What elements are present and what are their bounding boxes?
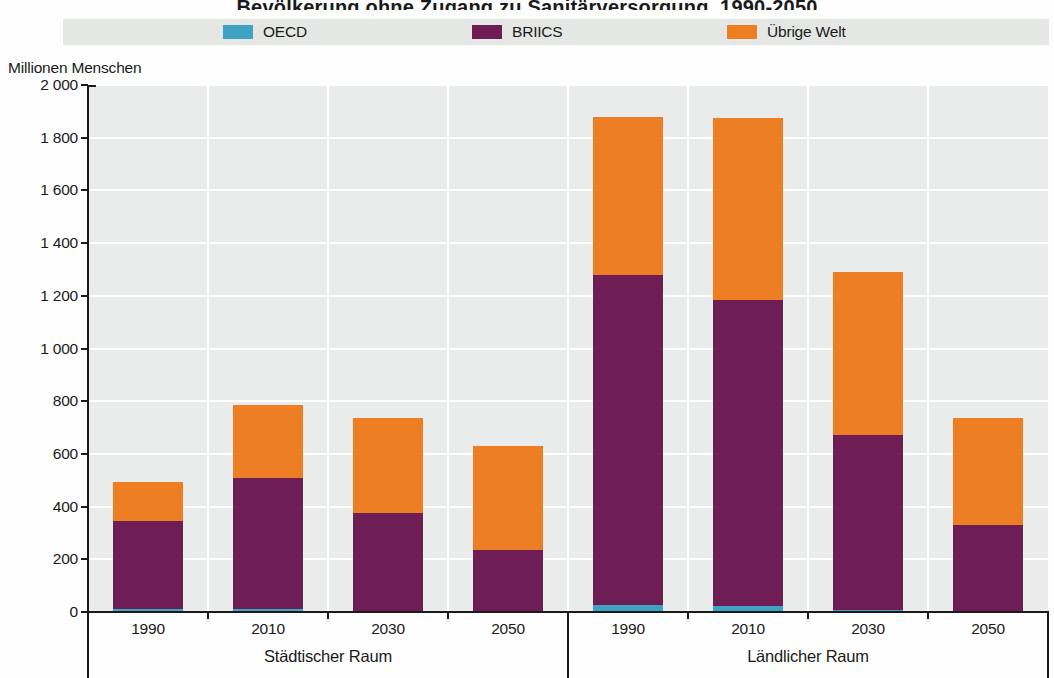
y-axis-tick-label: 800	[0, 392, 78, 410]
gridline-vertical	[447, 85, 449, 612]
x-axis-group-label: Städtischer Raum	[88, 646, 568, 666]
bar-segment--brige-welt	[353, 418, 423, 513]
legend: OECDBRIICSÜbrige Welt	[63, 19, 1049, 45]
x-axis-year-label: 2030	[808, 619, 928, 639]
y-axis-tick-label: 1 600	[0, 181, 78, 199]
bar-segment--brige-welt	[833, 272, 903, 435]
bar-segment--brige-welt	[953, 418, 1023, 525]
legend-item--brige-welt: Übrige Welt	[727, 19, 846, 45]
y-axis-tick	[81, 137, 88, 139]
legend-swatch-icon	[727, 25, 757, 39]
x-axis-year-label: 2050	[928, 619, 1048, 639]
gridline-vertical	[207, 85, 209, 612]
chart-figure: Bevölkerung ohne Zugang zu Sanitärversor…	[0, 0, 1054, 678]
y-axis-tick-label: 600	[0, 445, 78, 463]
x-axis-year-label: 1990	[568, 619, 688, 639]
x-axis-group-label: Ländlicher Raum	[568, 646, 1048, 666]
y-axis-line	[87, 85, 89, 678]
legend-label: OECD	[263, 23, 307, 41]
y-axis-tick-label: 0	[0, 603, 78, 621]
bar-segment--brige-welt	[473, 446, 543, 550]
figure-title-clipped: Bevölkerung ohne Zugang zu Sanitärversor…	[0, 0, 1054, 10]
bar-segment-briics	[953, 525, 1023, 611]
y-axis-tick	[81, 348, 88, 350]
figure-title-text: Bevölkerung ohne Zugang zu Sanitärversor…	[236, 0, 817, 10]
y-axis-top-tick	[89, 85, 96, 87]
bar-segment-briics	[233, 478, 303, 608]
gridline-vertical	[807, 85, 809, 612]
gridline-vertical	[327, 85, 329, 612]
gridline-vertical	[567, 85, 569, 612]
y-axis-tick	[81, 84, 88, 86]
bar-segment-briics	[593, 275, 663, 606]
y-axis-tick-label: 1 800	[0, 129, 78, 147]
legend-label: BRIICS	[512, 23, 562, 41]
bar-segment--brige-welt	[593, 117, 663, 275]
x-axis-year-label: 1990	[88, 619, 208, 639]
y-axis-tick-label: 400	[0, 498, 78, 516]
x-axis-year-label: 2010	[688, 619, 808, 639]
y-axis-tick	[81, 242, 88, 244]
x-axis-year-label: 2010	[208, 619, 328, 639]
y-axis-tick-label: 1 000	[0, 340, 78, 358]
gridline-vertical	[687, 85, 689, 612]
y-axis-tick	[81, 506, 88, 508]
bar-segment-briics	[833, 435, 903, 609]
y-axis-tick	[81, 295, 88, 297]
legend-item-oecd: OECD	[223, 19, 307, 45]
y-axis-tick	[81, 453, 88, 455]
legend-swatch-icon	[472, 25, 502, 39]
bar-segment-briics	[713, 300, 783, 606]
y-axis-tick	[81, 189, 88, 191]
y-axis-tick	[81, 611, 88, 613]
legend-swatch-icon	[223, 25, 253, 39]
y-axis-title: Millionen Menschen	[8, 59, 141, 77]
bar-segment--brige-welt	[713, 118, 783, 300]
y-axis-tick	[81, 558, 88, 560]
y-axis-tick-label: 2 000	[0, 76, 78, 94]
y-axis-tick-label: 200	[0, 550, 78, 568]
x-axis-year-label: 2050	[448, 619, 568, 639]
bar-segment-briics	[113, 521, 183, 609]
y-axis-tick-label: 1 400	[0, 234, 78, 252]
x-axis-year-label: 2030	[328, 619, 448, 639]
legend-label: Übrige Welt	[767, 23, 846, 41]
plot-area	[88, 85, 1048, 612]
bar-segment-briics	[473, 550, 543, 611]
y-axis-tick-label: 1 200	[0, 287, 78, 305]
bar-segment-briics	[353, 513, 423, 611]
bar-segment--brige-welt	[113, 482, 183, 522]
gridline-vertical	[927, 85, 929, 612]
legend-item-briics: BRIICS	[472, 19, 562, 45]
bar-segment--brige-welt	[233, 405, 303, 478]
y-axis-tick	[81, 400, 88, 402]
